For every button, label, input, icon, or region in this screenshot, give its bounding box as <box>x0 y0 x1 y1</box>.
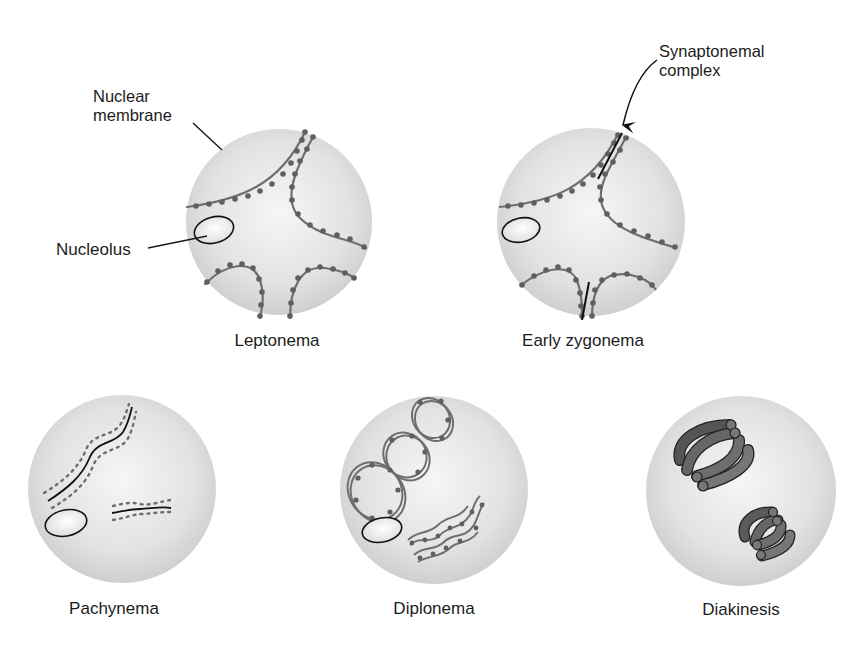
stage-label-leptonema: Leptonema <box>234 331 319 351</box>
synaptonemal-complex-label: Synaptonemal complex <box>659 42 765 80</box>
diakinesis-nucleus <box>646 396 836 586</box>
diplonema-nucleus <box>336 390 528 584</box>
stage-label-diplonema: Diplonema <box>393 599 474 619</box>
nuclear-membrane-leader-line <box>193 123 222 150</box>
early-zygonema-nucleus <box>497 128 685 320</box>
nucleolus-label: Nucleolus <box>56 240 131 260</box>
stage-label-diakinesis: Diakinesis <box>702 600 779 620</box>
nuclear-membrane-label: Nuclear membrane <box>93 87 172 125</box>
leptonema-nucleus <box>186 129 372 319</box>
synaptonemal-arrow-icon <box>623 60 657 125</box>
stage-label-early-zygonema: Early zygonema <box>522 331 644 351</box>
stage-label-pachynema: Pachynema <box>69 599 159 619</box>
pachynema-nucleus <box>28 395 216 583</box>
